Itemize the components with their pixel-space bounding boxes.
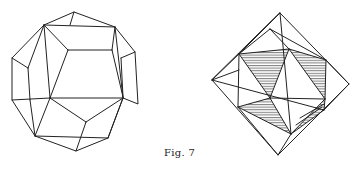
hatched-faces	[238, 49, 326, 134]
figure-caption: Fig. 7	[164, 147, 195, 158]
dodecahedron-figure	[12, 12, 138, 151]
octahedron-figure	[212, 13, 349, 155]
